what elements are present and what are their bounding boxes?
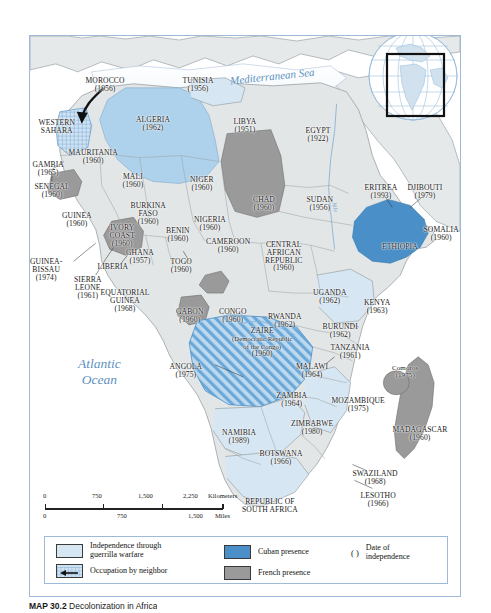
legend-label-date: Date ofindependence: [366, 544, 410, 562]
map-figure: Mediterranean Sea AtlanticOcean Nile Con…: [29, 35, 461, 597]
scale-km-0: 0: [43, 492, 46, 499]
legend-swatch-guerrilla: [56, 544, 83, 558]
region-senegal: [48, 170, 82, 200]
legend-swatch-cuban: [224, 545, 251, 559]
scale-bar: 0 750 1,500 2,250 Kilometers 0 750 1,500…: [42, 491, 252, 531]
legend-item-french: French presence: [224, 566, 310, 580]
figure-caption: MAP 30.2 Decolonization in Africa: [29, 601, 157, 613]
legend-symbol-date: ( ): [351, 548, 359, 558]
scale-mi-750: 750: [117, 512, 127, 519]
legend-item-occupation: Occupation by neighbor: [56, 564, 167, 578]
legend-label-french: French presence: [258, 569, 310, 578]
legend-swatch-french: [224, 566, 251, 580]
scale-mi-1500: 1,500: [188, 512, 203, 519]
globe-inset: [360, 35, 461, 132]
legend-item-date: ( ) Date ofindependence: [351, 544, 410, 562]
caption-label: MAP 30.2: [29, 601, 67, 611]
scale-km-unit: Kilometers: [208, 492, 237, 499]
scale-mi-unit: Miles: [215, 512, 230, 519]
scale-mi-0: 0: [43, 512, 46, 519]
legend-label-cuban: Cuban presence: [258, 548, 309, 557]
map-legend: Independence throughguerrilla warfare: [44, 536, 448, 584]
region-comoros: [383, 371, 409, 395]
scale-km-750: 750: [92, 492, 102, 499]
legend-swatch-occupation: [56, 564, 83, 578]
legend-label-guerrilla: Independence throughguerrilla warfare: [90, 542, 161, 560]
legend-item-guerrilla: Independence throughguerrilla warfare: [56, 542, 161, 560]
scale-km-1500: 1,500: [138, 492, 153, 499]
occupation-arrow-icon: [57, 567, 82, 578]
scale-km-2250: 2,250: [183, 492, 198, 499]
legend-label-occupation: Occupation by neighbor: [90, 567, 167, 576]
caption-title: Decolonization in Africa: [69, 601, 157, 611]
legend-item-cuban: Cuban presence: [224, 545, 309, 559]
